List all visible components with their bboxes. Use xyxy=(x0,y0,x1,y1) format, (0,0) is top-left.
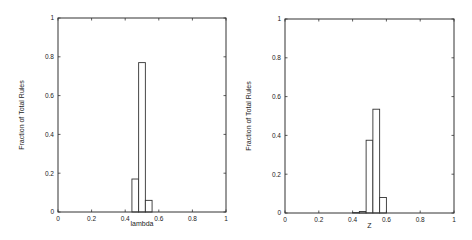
x-tick-label: 1 xyxy=(452,216,456,223)
y-tick-label: 0.4 xyxy=(272,132,281,139)
y-tick-label: 0 xyxy=(277,209,281,216)
x-tick-label: 0.8 xyxy=(416,216,425,223)
x-tick-label: 0.2 xyxy=(87,215,96,222)
histogram-lambda: 00.20.40.60.8100.20.40.60.81lambdaFracti… xyxy=(18,14,228,227)
x-tick-label: 0.6 xyxy=(382,216,391,223)
x-tick-label: 0.8 xyxy=(188,215,197,222)
histogram-bar xyxy=(139,63,146,212)
y-tick-label: 0.2 xyxy=(272,171,281,178)
y-tick-label: 1 xyxy=(50,14,54,21)
y-tick-label: 0.8 xyxy=(45,53,54,60)
x-axis-label: Z xyxy=(367,222,372,229)
y-axis-label: Fraction of Total Rules xyxy=(245,81,252,151)
histogram-bar xyxy=(373,109,380,213)
x-tick-label: 0.4 xyxy=(121,215,130,222)
histogram-bar xyxy=(132,179,139,212)
x-axis-label: lambda xyxy=(131,220,154,227)
figure: 00.20.40.60.8100.20.40.60.81lambdaFracti… xyxy=(0,0,472,240)
y-tick-label: 0.2 xyxy=(45,170,54,177)
histogram-bar xyxy=(145,200,152,212)
histogram-bar xyxy=(380,197,387,213)
x-tick-label: 1 xyxy=(224,215,228,222)
x-tick-label: 0.4 xyxy=(348,216,357,223)
y-tick-label: 0 xyxy=(50,208,54,215)
x-tick-label: 0.2 xyxy=(314,216,323,223)
x-tick-label: 0.6 xyxy=(154,215,163,222)
y-tick-label: 1 xyxy=(277,15,281,22)
histogram-z: 00.20.40.60.8100.20.40.60.81ZFraction of… xyxy=(245,15,456,229)
x-tick-label: 0 xyxy=(56,215,60,222)
x-tick-label: 0 xyxy=(283,216,287,223)
histogram-bar xyxy=(366,140,373,213)
y-tick-label: 0.6 xyxy=(45,92,54,99)
y-tick-label: 0.4 xyxy=(45,131,54,138)
y-tick-label: 0.8 xyxy=(272,54,281,61)
y-axis-label: Fraction of Total Rules xyxy=(18,80,25,150)
y-tick-label: 0.6 xyxy=(272,93,281,100)
